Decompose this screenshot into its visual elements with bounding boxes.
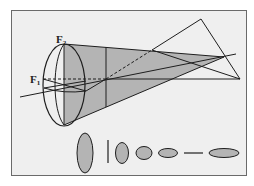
sturm-conoid-diagram: F2 F1: [0, 0, 254, 186]
cross-section-vertical-ellipse: [77, 133, 93, 173]
cross-section-horizontal-ellipse: [159, 149, 178, 158]
cross-section-large-horizontal-ellipse: [209, 149, 239, 158]
cross-section-small-vertical-ellipse: [116, 143, 129, 164]
cone-shaded-region: [64, 44, 224, 125]
cross-section-circle: [136, 147, 152, 160]
label-f2: F2: [56, 33, 67, 47]
label-f1: F1: [30, 73, 41, 87]
